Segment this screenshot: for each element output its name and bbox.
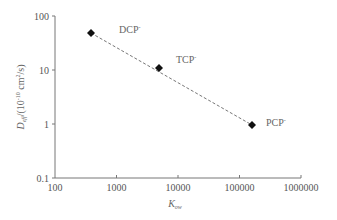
y-tick-label: 100	[34, 11, 49, 22]
data-point-pcp	[248, 121, 256, 129]
x-axis-title: Kow	[167, 198, 182, 210]
trendline	[91, 33, 252, 125]
chart-svg: 100 10 1 0.1 100 1000 10000 100000 10000…	[0, 0, 337, 220]
x-tick-label: 100000	[225, 182, 255, 193]
point-label-tcp: TCP-	[176, 54, 196, 65]
point-label-pcp: PCP-	[266, 117, 286, 128]
x-tick-label: 100	[48, 182, 63, 193]
y-axis-title: Deff/(10-10 cm2/s)	[15, 64, 27, 130]
point-label-dcp: DCP-	[119, 24, 140, 35]
data-point-dcp	[87, 29, 95, 37]
x-tick-label: 10000	[166, 182, 191, 193]
y-tick-label: 1	[44, 119, 49, 130]
y-tick-label: 10	[39, 65, 49, 76]
x-tick-label: 1000	[107, 182, 127, 193]
x-tick-label: 1000000	[284, 182, 319, 193]
